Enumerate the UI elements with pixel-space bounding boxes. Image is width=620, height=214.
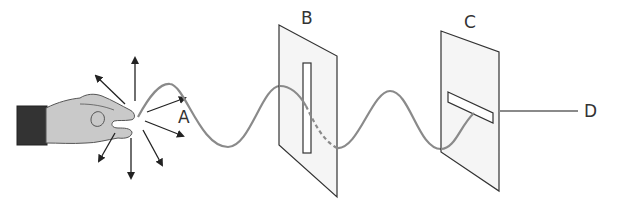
wave-segment-a bbox=[138, 84, 280, 147]
barrier-b bbox=[279, 25, 337, 197]
label-a: A bbox=[178, 107, 190, 127]
hand bbox=[46, 94, 135, 143]
label-c: C bbox=[464, 12, 476, 32]
arrow-down-right-icon bbox=[143, 130, 162, 165]
label-d: D bbox=[584, 101, 597, 121]
hand-icon bbox=[17, 94, 135, 145]
polarization-diagram: A B C D bbox=[0, 0, 620, 214]
wave-segment-bc bbox=[337, 91, 441, 149]
sleeve-cuff bbox=[17, 106, 47, 145]
curled-finger bbox=[91, 112, 104, 127]
barrier-c bbox=[441, 31, 499, 191]
label-b: B bbox=[301, 8, 313, 28]
